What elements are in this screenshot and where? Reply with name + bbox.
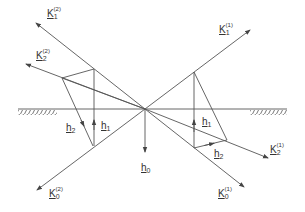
ground-hatch-right [250, 110, 287, 115]
diffraction-vector-diagram: K1(2) K2(2) K0(2) K1(1) K2(1) K0(1) h0 h… [0, 0, 305, 212]
label-K2-2: K2(2) [36, 48, 50, 62]
arrow-h2-left [81, 120, 84, 126]
vector-K1-2 [36, 23, 145, 109]
label-K0-1: K0(1) [218, 186, 232, 200]
vector-K1-1 [145, 30, 250, 109]
label-h1-right: h1 [202, 117, 211, 128]
label-h0: h0 [141, 163, 150, 174]
label-h1-left: h1 [101, 121, 110, 132]
arrow-h2-right [204, 143, 214, 145]
label-K1-2: K1(2) [47, 6, 61, 20]
left-top-edge [62, 69, 94, 78]
label-h2-right: h2 [214, 149, 223, 160]
label-h2-left: h2 [66, 123, 75, 134]
label-K1-1: K1(1) [219, 22, 233, 36]
ground-hatch-left [18, 110, 57, 115]
label-K0-2: K0(2) [49, 186, 63, 200]
vector-K0-2 [37, 109, 145, 190]
label-K2-1: K2(1) [270, 142, 284, 156]
right-diag [194, 72, 227, 140]
diagram-lines [0, 0, 305, 212]
